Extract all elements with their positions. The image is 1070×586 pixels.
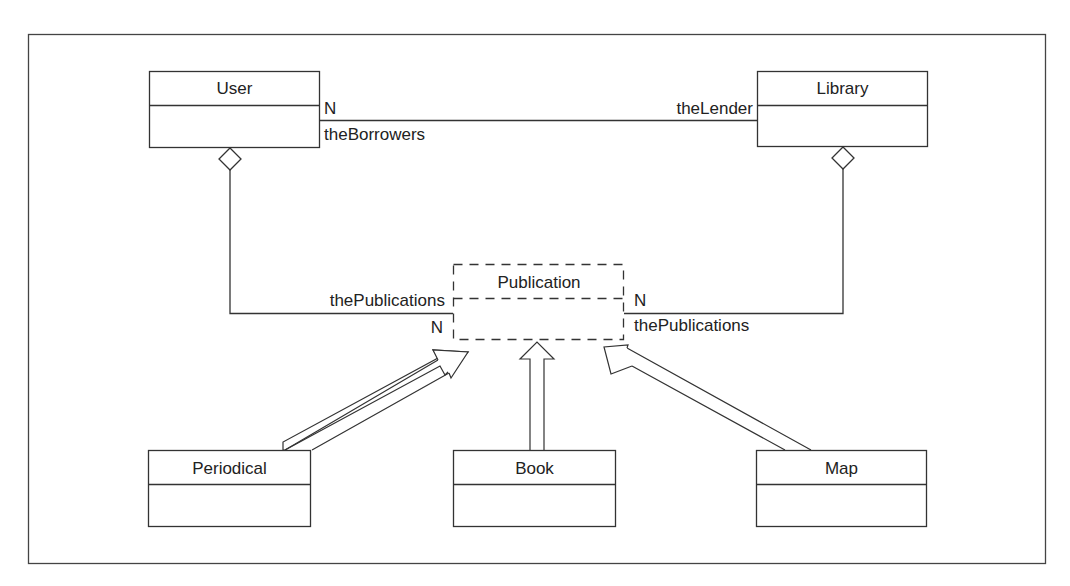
role-theborrowers: theBorrowers [324, 125, 425, 144]
multiplicity-user-publication: N [431, 318, 443, 337]
class-map[interactable]: Map [757, 451, 927, 527]
class-diagram: User Library N theBorrowers theLender th… [0, 0, 1070, 586]
class-user[interactable]: User [150, 72, 320, 148]
class-publication-name: Publication [497, 273, 580, 292]
class-book-name: Book [515, 459, 554, 478]
class-library-name: Library [817, 79, 869, 98]
aggregation-diamond-icon [219, 148, 241, 170]
class-periodical-name: Periodical [192, 459, 267, 478]
aggregation-user-publication: thePublications N [219, 148, 453, 337]
role-user-thepublications: thePublications [330, 291, 445, 310]
class-book[interactable]: Book [454, 451, 616, 527]
multiplicity-library-publication: N [634, 291, 646, 310]
multiplicity-user: N [324, 99, 336, 118]
class-library[interactable]: Library [758, 72, 928, 147]
class-map-name: Map [825, 459, 858, 478]
role-library-thepublications: thePublications [634, 316, 749, 335]
generalization-book [520, 342, 554, 450]
association-user-library: N theBorrowers theLender [320, 99, 758, 144]
aggregation-diamond-icon [832, 147, 854, 169]
class-publication[interactable]: Publication [454, 265, 624, 340]
generalization-periodical [283, 350, 468, 450]
role-thelender: theLender [676, 99, 753, 118]
generalization-map [604, 345, 811, 450]
class-periodical[interactable]: Periodical [149, 451, 311, 527]
class-user-name: User [217, 79, 253, 98]
aggregation-library-publication: N thePublications [624, 147, 854, 335]
